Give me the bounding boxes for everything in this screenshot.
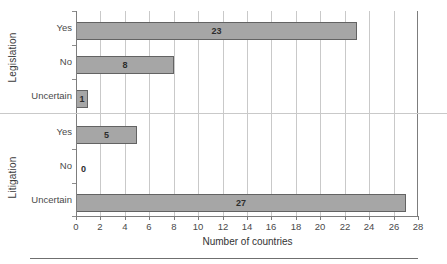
x-tick-mark bbox=[296, 216, 297, 220]
category-label-litigation-uncertain: Uncertain bbox=[0, 194, 72, 205]
x-tick-label-28: 28 bbox=[406, 221, 430, 232]
x-tick-mark bbox=[369, 216, 370, 220]
bar-value-legislation-no: 8 bbox=[76, 56, 174, 74]
category-label-legislation-no: No bbox=[0, 56, 72, 67]
x-tick-label-0: 0 bbox=[64, 221, 88, 232]
x-tick-label-12: 12 bbox=[211, 221, 235, 232]
x-tick-mark bbox=[320, 216, 321, 220]
x-tick-label-20: 20 bbox=[308, 221, 332, 232]
x-tick-mark bbox=[76, 216, 77, 220]
category-label-legislation-uncertain: Uncertain bbox=[0, 90, 72, 101]
category-label-litigation-no: No bbox=[0, 160, 72, 171]
category-axis: Yes No Uncertain Yes No Uncertain bbox=[0, 0, 72, 264]
x-tick-mark bbox=[223, 216, 224, 220]
bar-value-litigation-uncertain: 27 bbox=[76, 194, 406, 212]
x-tick-label-16: 16 bbox=[259, 221, 283, 232]
category-label-litigation-yes: Yes bbox=[0, 126, 72, 137]
x-tick-mark bbox=[345, 216, 346, 220]
x-tick-mark bbox=[418, 216, 419, 220]
x-tick-mark bbox=[100, 216, 101, 220]
footer-rule bbox=[30, 258, 418, 259]
x-tick-mark bbox=[149, 216, 150, 220]
x-tick-mark bbox=[394, 216, 395, 220]
x-tick-label-10: 10 bbox=[186, 221, 210, 232]
x-tick-label-26: 26 bbox=[382, 221, 406, 232]
x-tick-label-6: 6 bbox=[137, 221, 161, 232]
x-tick-mark bbox=[198, 216, 199, 220]
x-tick-label-4: 4 bbox=[113, 221, 137, 232]
bar-value-litigation-yes: 5 bbox=[76, 126, 137, 144]
bar-value-litigation-no: 0 bbox=[81, 160, 101, 178]
x-tick-mark bbox=[174, 216, 175, 220]
category-label-legislation-yes: Yes bbox=[0, 22, 72, 33]
x-tick-label-24: 24 bbox=[357, 221, 381, 232]
bar-value-legislation-uncertain: 1 bbox=[76, 90, 88, 108]
x-tick-mark bbox=[247, 216, 248, 220]
x-tick-label-2: 2 bbox=[88, 221, 112, 232]
group-separator bbox=[0, 113, 447, 114]
bar-value-legislation-yes: 23 bbox=[76, 22, 357, 40]
x-tick-mark bbox=[125, 216, 126, 220]
chart-figure: Legislation Litigation Yes No Uncertain … bbox=[0, 0, 447, 264]
x-tick-mark bbox=[271, 216, 272, 220]
x-tick-label-8: 8 bbox=[162, 221, 186, 232]
x-axis-title: Number of countries bbox=[76, 236, 419, 247]
x-tick-label-14: 14 bbox=[235, 221, 259, 232]
x-tick-label-18: 18 bbox=[284, 221, 308, 232]
x-tick-label-22: 22 bbox=[333, 221, 357, 232]
